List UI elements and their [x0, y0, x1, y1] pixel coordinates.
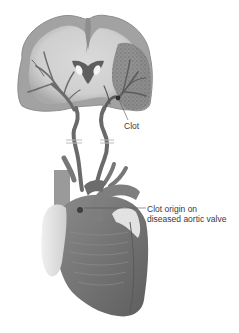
clot-marker: [116, 96, 121, 101]
heart: [41, 158, 148, 316]
clot-label: Clot: [124, 121, 139, 131]
clot-origin-label: Clot origin on diseased aortic valve: [147, 204, 226, 224]
stroke-illustration: [0, 0, 239, 333]
clot-origin-label-line1: Clot origin on: [147, 204, 226, 214]
carotid-arteries: [73, 108, 107, 190]
diseased-aortic-valve: [77, 207, 83, 213]
clot-origin-label-line2: diseased aortic valve: [147, 214, 226, 224]
brain: [18, 15, 152, 111]
